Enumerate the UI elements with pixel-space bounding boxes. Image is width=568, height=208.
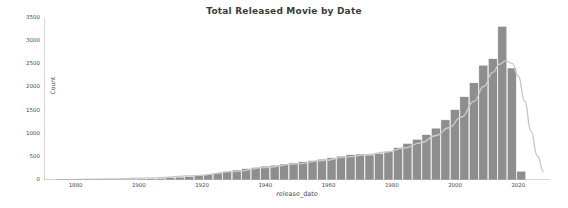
x-axis-tick-label: 2020: [498, 183, 538, 189]
histogram-bar: [289, 163, 298, 180]
y-axis-tick-label: 2500: [10, 61, 40, 67]
histogram-plot: [44, 18, 550, 180]
histogram-bar: [374, 153, 383, 180]
histogram-bar: [393, 148, 402, 180]
x-axis-tick-label: 1980: [372, 183, 412, 189]
y-axis-tick-label: 500: [10, 154, 40, 160]
y-axis-tick-label: 1000: [10, 131, 40, 137]
histogram-bar: [175, 177, 184, 180]
histogram-bar: [403, 143, 412, 180]
histogram-bar: [498, 26, 507, 180]
histogram-bar: [337, 156, 346, 180]
x-axis-tick-label: 1920: [182, 183, 222, 189]
y-axis-tick-label: 3000: [10, 38, 40, 44]
histogram-bar: [450, 110, 459, 180]
histogram-bar: [318, 159, 327, 180]
histogram-bar: [507, 68, 516, 180]
chart-title: Total Released Movie by Date: [0, 6, 568, 16]
x-axis-tick-label: 1900: [119, 183, 159, 189]
histogram-bar: [308, 161, 317, 180]
chart-figure: Total Released Movie by Date 05001000150…: [0, 0, 568, 208]
y-axis-tick-labels: 0500100015002000250030003500: [8, 18, 40, 180]
y-axis-tick-label: 0: [10, 177, 40, 183]
histogram-bar: [517, 171, 526, 180]
plot-area: Count: [44, 18, 550, 180]
histogram-bar: [185, 176, 194, 180]
x-axis-tick-label: 1960: [309, 183, 349, 189]
histogram-bar: [346, 155, 355, 180]
histogram-bar: [356, 154, 365, 180]
x-axis-label: release_date: [44, 190, 550, 198]
y-axis-tick-label: 2000: [10, 84, 40, 90]
histogram-bar: [327, 158, 336, 180]
histogram-bar: [365, 155, 374, 180]
histogram-bar: [384, 151, 393, 180]
bars-group: [52, 26, 526, 180]
y-axis-tick-label: 1500: [10, 108, 40, 114]
histogram-bar: [280, 164, 289, 180]
y-axis-tick-label: 3500: [10, 15, 40, 21]
x-axis-tick-label: 1940: [245, 183, 285, 189]
x-axis-tick-label: 1880: [56, 183, 96, 189]
x-axis-tick-label: 2000: [435, 183, 475, 189]
histogram-bar: [299, 162, 308, 180]
